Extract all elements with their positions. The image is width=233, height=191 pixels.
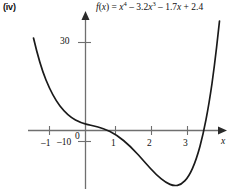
y-axis-arrowhead <box>82 11 90 20</box>
x-axis <box>28 127 227 135</box>
x-axis-label: x <box>221 136 225 146</box>
figure-panel: (iv) f(x) = x4 – 3.2x3 – 1.7x + 2.4 <box>0 0 233 191</box>
x-tick-label-2: 2 <box>147 138 152 148</box>
y-axis-ticks <box>78 43 91 142</box>
x-axis-arrowhead <box>218 127 227 135</box>
x-tick-label-3: 3 <box>183 138 188 148</box>
origin-label: 0 <box>75 131 80 141</box>
y-tick-label-30: 30 <box>60 36 70 46</box>
cartesian-plot <box>0 0 233 191</box>
x-tick-label-neg1: –1 <box>41 138 51 148</box>
y-tick-label-neg10: –10 <box>57 137 71 147</box>
y-axis <box>82 11 90 189</box>
x-tick-label-1: 1 <box>111 138 116 148</box>
